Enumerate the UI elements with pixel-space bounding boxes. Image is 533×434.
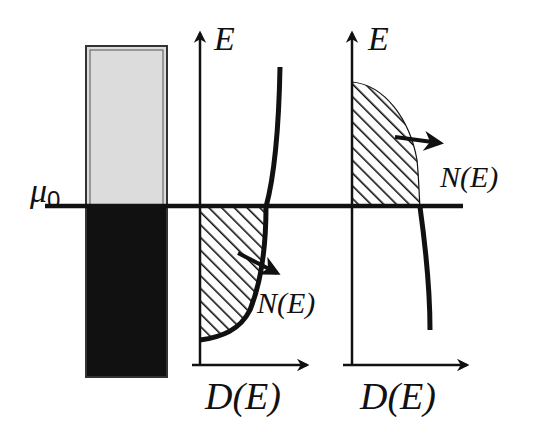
mu-symbol: μ [30,172,47,209]
empty-band [86,46,167,206]
right-panel [343,33,467,366]
dos-diagram [0,0,533,434]
left-dos-axis-label: D(E) [205,377,281,415]
left-occupied-hatch [200,207,265,340]
right-dos-axis-label: D(E) [360,377,436,415]
right-dos-curve-lower [420,207,430,330]
left-curve-label: N(E) [257,288,315,318]
right-energy-axis-label: E [368,22,389,56]
mu-subscript: 0 [47,186,60,213]
filled-band [86,206,167,377]
right-occupied-hatch [352,82,420,207]
left-energy-axis-label: E [214,22,235,56]
chemical-potential-label: μ0 [30,174,60,208]
band-bar [86,46,167,377]
right-curve-label: N(E) [440,162,498,192]
